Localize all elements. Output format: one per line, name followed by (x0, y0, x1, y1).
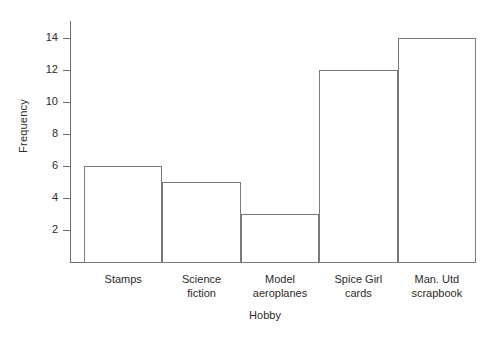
x-axis-tick-label-line: Science (162, 272, 240, 286)
x-axis-tick-label: Man. Utdscrapbook (398, 272, 476, 300)
x-axis-tick-label: Spice Girlcards (319, 272, 397, 300)
x-axis-tick-label-line: Man. Utd (398, 272, 476, 286)
x-axis-tick-label-line: fiction (162, 286, 240, 300)
x-axis-title: Hobby (215, 309, 315, 321)
x-axis-tick-label: Stamps (84, 272, 162, 286)
bar (241, 214, 319, 263)
x-axis-tick-label-line: cards (319, 286, 397, 300)
bar-chart: Frequency 2468101214 StampsSciencefictio… (0, 0, 495, 339)
x-axis-tick-label-line: Stamps (84, 272, 162, 286)
x-axis-tick-label-line: Model (241, 272, 319, 286)
x-axis-tick-label-line: scrapbook (398, 286, 476, 300)
bar (84, 166, 162, 263)
bar (319, 70, 397, 263)
bar (398, 38, 476, 263)
bar (162, 182, 240, 263)
x-axis-tick-label: Modelaeroplanes (241, 272, 319, 300)
x-axis-tick-label-line: aeroplanes (241, 286, 319, 300)
bars-layer: StampsSciencefictionModelaeroplanesSpice… (0, 0, 495, 339)
x-axis-tick-label-line: Spice Girl (319, 272, 397, 286)
x-axis-tick-label: Sciencefiction (162, 272, 240, 300)
